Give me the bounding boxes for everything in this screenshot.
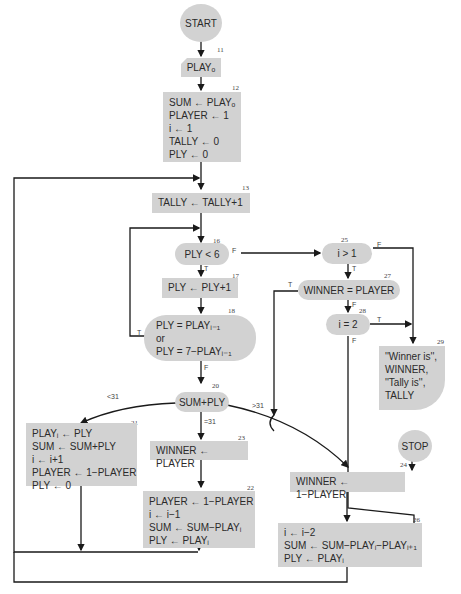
ply-increment: PLY ← PLY+1: [162, 278, 238, 298]
record-play-line-5: PLY ← 0: [32, 479, 131, 492]
winner-is-other-label: WINNER ← 1−PLAYER: [296, 476, 349, 500]
decision-sum-plus-ply-label: SUM+PLY: [179, 396, 225, 409]
edge-27-true: T: [288, 281, 292, 288]
step-number-13: 13: [242, 184, 249, 192]
record-play-line-1: PLAYᵢ ← PLY: [32, 427, 131, 440]
ply-increment-label: PLY ← PLY+1: [168, 282, 231, 293]
edge-16-true: T: [204, 265, 208, 272]
edge-20-eq31: =31: [204, 418, 216, 425]
tally-increment: TALLY ← TALLY+1: [152, 193, 250, 213]
backtrack-two-line-1: i ← i−2: [284, 526, 416, 539]
step-number-27: 27: [384, 272, 391, 280]
backtrack-two-line-3: PLY ← PLAYᵢ: [284, 552, 416, 565]
edge-18-true: T: [137, 329, 141, 336]
init-line-1: SUM ← PLAYₒ: [169, 96, 235, 109]
step-number-29: 29: [437, 338, 444, 346]
step-number-18: 18: [228, 307, 235, 315]
step-number-24: 24: [400, 461, 407, 469]
edge-27-false: F: [352, 301, 356, 308]
record-play-line-2: SUM ← SUM+PLY: [32, 440, 131, 453]
decision-ply-repeat-line-1: PLY = PLAYᵢ₋₁: [156, 319, 244, 332]
decision-ply-repeat: PLY = PLAYᵢ₋₁ or PLY = 7−PLAYᵢ₋₁: [144, 315, 256, 361]
backtrack-line-4: PLY ← PLAYᵢ: [149, 534, 249, 547]
winner-is-other: WINNER ← 1−PLAYER: [290, 472, 405, 492]
edge-25-false: F: [377, 241, 381, 248]
tally-increment-label: TALLY ← TALLY+1: [158, 197, 243, 208]
backtrack-line-1: PLAYER ← 1−PLAYER: [149, 495, 249, 508]
output-line-3: ''Tally is'',: [385, 376, 439, 389]
start-label: START: [185, 17, 217, 30]
start-terminal: START: [180, 4, 222, 42]
record-play-line-3: i ← i+1: [32, 453, 131, 466]
edge-28-true: T: [377, 316, 381, 323]
input-play0: PLAYₒ: [181, 58, 221, 77]
input-play0-label: PLAYₒ: [187, 62, 216, 73]
edge-18-false: F: [204, 364, 208, 371]
decision-ply-repeat-line-3: PLY = 7−PLAYᵢ₋₁: [156, 345, 244, 358]
backtrack-two-line-2: SUM ← SUM−PLAYᵢ−PLAYᵢ₊₁: [284, 539, 416, 552]
init-line-4: TALLY ← 0: [169, 135, 235, 148]
decision-ply-repeat-line-2: or: [156, 332, 244, 345]
record-play-line-4: PLAYER ← 1−PLAYER: [32, 466, 131, 479]
step-number-11: 11: [217, 46, 224, 54]
output-winner-tally: ''Winner is'', WINNER, ''Tally is'', TAL…: [379, 346, 445, 410]
step-number-12: 12: [232, 84, 239, 92]
winner-is-player: WINNER ← PLAYER: [150, 441, 248, 460]
backtrack-line-2: i ← i−1: [149, 508, 249, 521]
decision-ply-lt-6-label: PLY < 6: [185, 248, 220, 261]
decision-sum-plus-ply: SUM+PLY: [175, 392, 229, 412]
record-play-block: PLAYᵢ ← PLY SUM ← SUM+PLY i ← i+1 PLAYER…: [26, 423, 137, 486]
init-block: SUM ← PLAYₒ PLAYER ← 1 i ← 1 TALLY ← 0 P…: [163, 92, 241, 162]
output-line-1: ''Winner is'',: [385, 350, 439, 363]
decision-i-gt-1: i > 1: [322, 243, 372, 264]
edge-20-lt31: <31: [107, 393, 119, 400]
init-line-5: PLY ← 0: [169, 148, 235, 161]
edge-28-false: F: [352, 337, 356, 344]
stop-terminal: STOP: [398, 430, 432, 462]
decision-winner-eq-player: WINNER = PLAYER: [298, 280, 400, 300]
init-line-2: PLAYER ← 1: [169, 109, 235, 122]
decision-i-eq-2-label: i = 2: [338, 318, 357, 331]
edge-16-false: F: [232, 247, 236, 254]
backtrack-block: PLAYER ← 1−PLAYER i ← i−1 SUM ← SUM−PLAY…: [143, 491, 255, 548]
decision-winner-eq-player-label: WINNER = PLAYER: [304, 284, 395, 297]
output-line-4: TALLY: [385, 389, 439, 402]
decision-i-gt-1-label: i > 1: [337, 247, 356, 260]
decision-i-eq-2: i = 2: [326, 314, 370, 335]
output-line-2: WINNER,: [385, 363, 439, 376]
decision-ply-lt-6: PLY < 6: [175, 243, 229, 265]
backtrack-line-3: SUM ← SUM−PLAYᵢ: [149, 521, 249, 534]
init-line-3: i ← 1: [169, 122, 235, 135]
step-number-20: 20: [212, 382, 219, 390]
edge-20-gt31: >31: [252, 402, 264, 409]
stop-label: STOP: [401, 440, 428, 453]
edge-25-true: T: [352, 265, 356, 272]
backtrack-two-block: i ← i−2 SUM ← SUM−PLAYᵢ−PLAYᵢ₊₁ PLY ← PL…: [278, 523, 422, 567]
